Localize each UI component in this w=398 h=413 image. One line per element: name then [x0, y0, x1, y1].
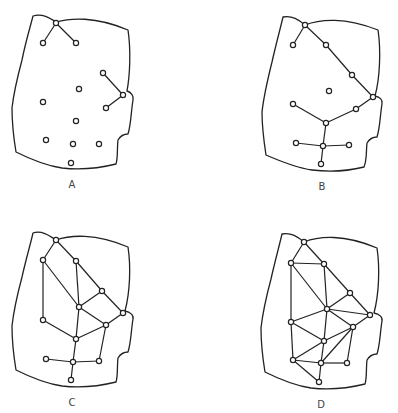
panel-d: D	[261, 234, 382, 410]
graph-node	[40, 40, 45, 45]
panel-label-b: B	[319, 181, 326, 192]
graph-node	[346, 142, 351, 147]
graph-edge	[79, 291, 102, 307]
graph-edge	[291, 263, 327, 309]
graph-edge	[73, 361, 99, 362]
graph-edge	[99, 325, 106, 361]
graph-edge	[323, 123, 326, 146]
graph-edge	[293, 360, 321, 363]
graph-edge	[324, 309, 327, 341]
graph-edge	[326, 45, 352, 75]
graph-node	[290, 357, 295, 362]
graph-edge	[56, 23, 76, 43]
graph-edge	[76, 261, 79, 307]
network-diagram-figure: A B C D	[0, 0, 398, 413]
graph-node	[73, 258, 78, 263]
graph-node	[120, 310, 125, 315]
graph-node	[40, 99, 45, 104]
graph-edge	[291, 322, 324, 341]
graph-node	[96, 141, 101, 146]
graph-edge	[296, 143, 323, 146]
graph-node	[323, 120, 328, 125]
graph-node	[99, 288, 104, 293]
graph-edge	[324, 327, 353, 341]
graph-node	[321, 338, 326, 343]
graph-edge	[43, 240, 56, 260]
graph-edge	[327, 293, 350, 309]
graph-edge	[293, 25, 305, 45]
graph-edge	[305, 25, 326, 45]
graph-edge	[350, 293, 370, 315]
graph-node	[370, 94, 375, 99]
edges-layer	[291, 242, 370, 382]
graph-edge	[293, 341, 324, 360]
graph-node	[326, 88, 331, 93]
graph-edge	[76, 261, 102, 291]
graph-node	[73, 40, 78, 45]
graph-edge	[43, 260, 79, 307]
edges-layer	[43, 240, 123, 380]
graph-edge	[76, 307, 79, 339]
graph-node	[353, 106, 358, 111]
graph-edge	[324, 264, 350, 293]
graph-edge	[352, 75, 373, 97]
graph-node	[103, 322, 108, 327]
graph-node	[40, 257, 45, 262]
edges-layer	[293, 25, 373, 164]
graph-edge	[291, 322, 293, 360]
graph-node	[53, 20, 58, 25]
graph-node	[103, 105, 108, 110]
graph-node	[367, 312, 372, 317]
graph-node	[316, 379, 321, 384]
graph-edge	[293, 360, 319, 382]
graph-node	[100, 70, 105, 75]
graph-node	[290, 101, 295, 106]
graph-node	[68, 160, 73, 165]
graph-edge	[79, 307, 106, 325]
graph-node	[324, 306, 329, 311]
graph-node	[76, 304, 81, 309]
graph-node	[318, 161, 323, 166]
edges-layer	[43, 23, 123, 108]
graph-edge	[293, 104, 326, 123]
panel-label-c: C	[69, 397, 76, 408]
graph-edge	[73, 339, 76, 362]
graph-node	[288, 319, 293, 324]
graph-node	[320, 143, 325, 148]
graph-node	[293, 140, 298, 145]
graph-node	[344, 360, 349, 365]
graph-node	[290, 42, 295, 47]
graph-edge	[56, 240, 76, 261]
graph-node	[301, 239, 306, 244]
graph-edge	[43, 23, 56, 43]
graph-node	[96, 358, 101, 363]
nodes-layer	[40, 20, 125, 165]
graph-node	[40, 317, 45, 322]
graph-edge	[43, 320, 76, 339]
graph-edge	[291, 242, 304, 263]
graph-node	[321, 261, 326, 266]
nodes-layer	[290, 22, 375, 166]
graph-node	[73, 118, 78, 123]
panel-label-a: A	[69, 179, 76, 190]
graph-node	[323, 42, 328, 47]
graph-node	[73, 336, 78, 341]
graph-node	[318, 360, 323, 365]
graph-node	[76, 86, 81, 91]
graph-edge	[291, 263, 324, 264]
graph-node	[53, 237, 58, 242]
graph-edge	[304, 242, 324, 264]
graph-edge	[323, 145, 349, 146]
graph-node	[70, 141, 75, 146]
graph-edge	[326, 109, 356, 123]
graph-edge	[46, 359, 73, 362]
graph-node	[43, 137, 48, 142]
graph-edge	[324, 264, 327, 309]
graph-node	[70, 359, 75, 364]
panel-b: B	[262, 17, 382, 192]
panel-c: C	[12, 232, 133, 408]
panel-label-d: D	[317, 399, 325, 410]
graph-edge	[76, 325, 106, 339]
graph-node	[302, 22, 307, 27]
graph-node	[68, 377, 73, 382]
